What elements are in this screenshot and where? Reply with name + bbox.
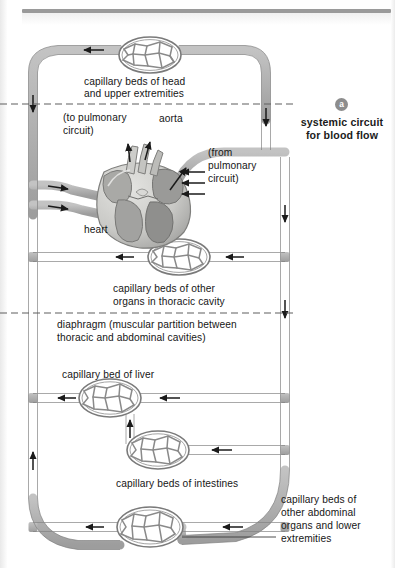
label-abdominal-capillaries-line2: other abdominal bbox=[281, 507, 356, 519]
heart-illustration bbox=[97, 144, 191, 248]
label-heart: heart bbox=[84, 224, 108, 236]
vessel-head-right-arm bbox=[179, 50, 266, 120]
label-from-pulmonary-line1: (from bbox=[208, 147, 232, 159]
label-thoracic-capillaries-line2: organs in thoracic cavity bbox=[113, 296, 225, 308]
capillary-bed-liver bbox=[79, 379, 141, 417]
label-from-pulmonary-line2: pulmonary bbox=[208, 160, 256, 172]
label-liver-capillary: capillary bed of liver bbox=[62, 369, 154, 381]
label-abdominal-capillaries-line3: organs and lower bbox=[281, 520, 361, 532]
vessel-svc-into-heart bbox=[33, 185, 98, 196]
label-from-pulmonary-line3: circuit) bbox=[208, 173, 239, 185]
label-diaphragm-line2: thoracic and abdominal cavities) bbox=[57, 332, 206, 344]
label-aorta: aorta bbox=[159, 113, 183, 125]
label-thoracic-capillaries-line1: capillary beds of other bbox=[113, 283, 215, 295]
label-to-pulmonary-line1: (to pulmonary bbox=[63, 112, 127, 124]
label-head-capillaries-line2: and upper extremities bbox=[84, 88, 184, 100]
capillary-bed-abdominal bbox=[117, 507, 183, 547]
figure-canvas: capillary beds of head and upper extremi… bbox=[0, 0, 395, 568]
panel-title-line1: systemic circuit bbox=[292, 116, 392, 129]
label-to-pulmonary-line2: circuit) bbox=[63, 125, 94, 137]
label-head-capillaries-line1: capillary beds of head bbox=[84, 76, 185, 88]
panel-badge-a: a bbox=[335, 98, 348, 111]
label-abdominal-capillaries-line1: capillary beds of bbox=[281, 494, 356, 506]
panel-title-line2: for blood flow bbox=[292, 129, 392, 142]
capillary-bed-intestines bbox=[127, 431, 189, 469]
label-diaphragm-line1: diaphragm (muscular partition between bbox=[57, 319, 237, 331]
label-abdominal-capillaries-line4: extremities bbox=[281, 533, 331, 545]
label-intestine-capillaries: capillary beds of intestines bbox=[116, 478, 238, 490]
capillary-bed-head bbox=[119, 37, 181, 73]
